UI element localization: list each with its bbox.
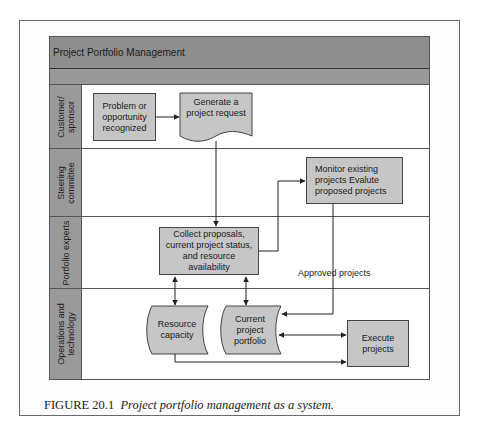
node-generate-request: Generate a project request bbox=[180, 96, 252, 120]
node-current-portfolio: Current project portfolio bbox=[222, 306, 278, 354]
edge-label-approved: Approved projects bbox=[298, 268, 371, 278]
node-resource-capacity: Resource capacity bbox=[148, 306, 206, 354]
connectors bbox=[0, 0, 480, 434]
node-execute-projects: Execute projects bbox=[347, 320, 409, 367]
node-monitor-evaluate: Monitor existing projects Evalute propos… bbox=[306, 157, 403, 204]
node-collect-proposals: Collect proposals, current project statu… bbox=[159, 227, 259, 275]
node-problem-recognized: Problem or opportunity recognized bbox=[93, 93, 156, 141]
caption-number: FIGURE 20.1 bbox=[44, 398, 114, 412]
figure-caption: FIGURE 20.1 Project portfolio management… bbox=[44, 398, 334, 413]
caption-text: Project portfolio management as a system… bbox=[120, 398, 333, 412]
